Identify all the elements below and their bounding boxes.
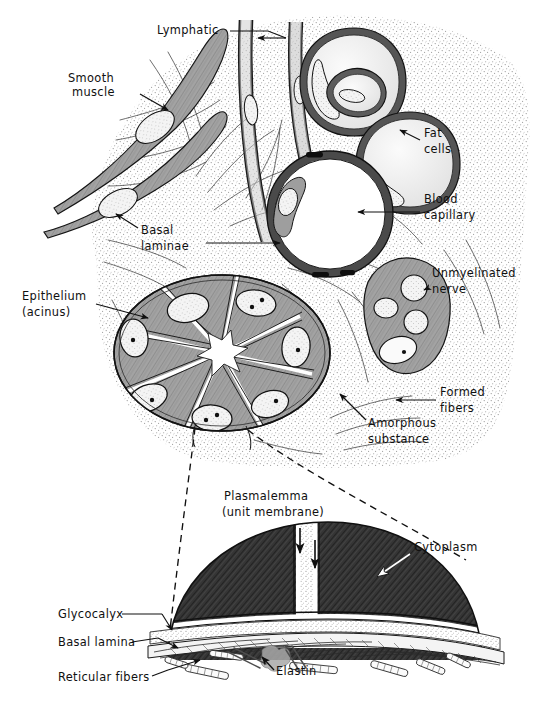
label-epithelium-line1: Epithelium: [22, 289, 86, 303]
figure-canvas: Lymphatic Smooth muscle Fat cells Blood …: [0, 0, 536, 714]
label-smooth-muscle-line2: muscle: [72, 85, 115, 99]
label-formed-fibers-line1: Formed: [440, 385, 485, 399]
label-glycocalyx-text: Glycocalyx: [58, 607, 123, 621]
label-basal-laminae-line2: laminae: [141, 239, 189, 253]
label-smooth-muscle-line1: Smooth: [68, 71, 114, 85]
label-amorphous-substance-line1: Amorphous: [368, 416, 436, 430]
label-blood-capillary-line1: Blood: [424, 192, 458, 206]
label-unmyelinated-nerve-line2: nerve: [432, 282, 466, 296]
label-unmyelinated-nerve-line1: Unmyelinated: [432, 266, 516, 280]
label-lymphatic-text: Lymphatic: [157, 23, 219, 37]
label-reticular-fibers-text: Reticular fibers: [58, 670, 150, 684]
label-fat-cells-line2: cells: [424, 142, 451, 156]
label-fat-cells-line1: Fat: [424, 126, 442, 140]
label-epithelium-line2: (acinus): [22, 305, 70, 319]
label-formed-fibers-line2: fibers: [440, 401, 474, 415]
label-elastin-text: Elastin: [276, 664, 317, 678]
label-cytoplasm-text: Cytoplasm: [414, 540, 478, 554]
epithelium-acinus: [114, 274, 330, 432]
label-plasmalemma-line2: (unit membrane): [222, 505, 324, 519]
label-basal-lamina-text: Basal lamina: [58, 635, 135, 649]
label-plasmalemma-line1: Plasmalemma: [224, 489, 308, 503]
label-basal-laminae-line1: Basal: [141, 223, 174, 237]
label-blood-capillary-line2: capillary: [424, 208, 476, 222]
anatomy-diagram: Lymphatic Smooth muscle Fat cells Blood …: [0, 0, 536, 714]
blood-capillary: [267, 151, 393, 278]
fat-cell-small-top: [327, 68, 386, 116]
label-amorphous-substance-line2: substance: [368, 432, 429, 446]
